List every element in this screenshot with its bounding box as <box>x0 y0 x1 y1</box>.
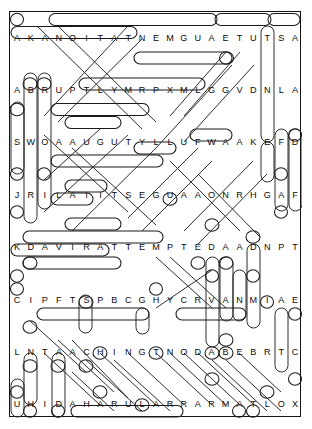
grid-cell: A <box>107 12 121 64</box>
grid-cell: P <box>163 222 177 274</box>
grid-cell: U <box>163 169 177 221</box>
grid-row: CIPFTSPBCGHYCRVANMIAE <box>10 274 302 326</box>
grid-cell: F <box>288 169 302 221</box>
grid-cell: T <box>121 117 135 169</box>
grid-cell: U <box>52 64 66 116</box>
grid-cell: A <box>66 117 80 169</box>
grid-cell: E <box>233 326 247 378</box>
grid-cell: L <box>274 64 288 116</box>
grid-cell: L <box>191 64 205 116</box>
grid-cell: M <box>246 274 260 326</box>
grid-cell: T <box>80 64 94 116</box>
grid-cell: J <box>10 169 24 221</box>
grid-cell: N <box>121 326 135 378</box>
grid-cell: R <box>205 379 219 429</box>
grid-cell: U <box>107 117 121 169</box>
grid-row: JRILAIITSEGUAAONRHGAF <box>10 169 302 221</box>
grid-cell: I <box>38 379 52 429</box>
grid-cell: A <box>10 64 24 116</box>
grid-cell: N <box>52 12 66 64</box>
grid-cell: U <box>246 12 260 64</box>
grid-cell: A <box>219 222 233 274</box>
grid-row: KDAVIRATTEMPTEDAADNPT <box>10 222 302 274</box>
grid-cell: Y <box>163 274 177 326</box>
grid-cell: A <box>274 274 288 326</box>
grid-cell: Y <box>107 64 121 116</box>
grid-cell: R <box>24 169 38 221</box>
grid-cell: K <box>246 117 260 169</box>
grid-cell: U <box>191 12 205 64</box>
grid-cell: R <box>260 326 274 378</box>
grid-cell: R <box>177 379 191 429</box>
grid-cell: H <box>149 274 163 326</box>
grid-cell: P <box>66 64 80 116</box>
grid-cell: A <box>288 12 302 64</box>
grid-cell: T <box>93 12 107 64</box>
grid-cell: U <box>121 379 135 429</box>
grid-cell: G <box>219 64 233 116</box>
grid-cell: P <box>93 274 107 326</box>
grid-cell: R <box>233 169 247 221</box>
grid-cell: M <box>163 12 177 64</box>
grid-cell: C <box>121 274 135 326</box>
grid-row: AKANOITATNEMGUAETUTSA <box>10 12 302 64</box>
grid-cell: G <box>260 169 274 221</box>
letter-grid: AKANOITATNEMGUAETUTSAABRUPTLYMRPXMLGGVDN… <box>10 12 302 418</box>
grid-cell: W <box>24 117 38 169</box>
grid-cell: D <box>191 326 205 378</box>
grid-cell: F <box>52 274 66 326</box>
grid-cell: I <box>38 169 52 221</box>
grid-cell: H <box>80 379 94 429</box>
grid-cell: I <box>80 169 94 221</box>
grid-cell: N <box>260 222 274 274</box>
grid-cell: D <box>24 222 38 274</box>
grid-cell: T <box>66 274 80 326</box>
grid-cell: O <box>38 117 52 169</box>
grid-cell: D <box>246 222 260 274</box>
grid-cell: M <box>121 64 135 116</box>
grid-cell: H <box>93 326 107 378</box>
grid-cell: A <box>233 117 247 169</box>
grid-cell: R <box>135 64 149 116</box>
grid-cell: G <box>177 12 191 64</box>
grid-cell: H <box>246 169 260 221</box>
grid-cell: D <box>246 64 260 116</box>
grid-cell: S <box>80 274 94 326</box>
grid-cell: T <box>121 222 135 274</box>
grid-cell: O <box>177 326 191 378</box>
grid-cell: E <box>149 12 163 64</box>
grid-cell: T <box>38 326 52 378</box>
grid-cell: N <box>163 326 177 378</box>
grid-cell: M <box>177 64 191 116</box>
grid-cell: B <box>107 274 121 326</box>
grid-cell: L <box>93 64 107 116</box>
grid-cell: I <box>66 222 80 274</box>
grid-cell: T <box>107 222 121 274</box>
grid-cell: S <box>10 117 24 169</box>
grid-cell: N <box>219 169 233 221</box>
grid-cell: I <box>107 326 121 378</box>
grid-cell: E <box>288 274 302 326</box>
grid-cell: N <box>24 326 38 378</box>
grid-cell: A <box>191 169 205 221</box>
grid-cell: A <box>93 222 107 274</box>
grid-cell: F <box>274 117 288 169</box>
grid-cell: V <box>52 222 66 274</box>
grid-cell: A <box>288 64 302 116</box>
grid-cell: T <box>177 222 191 274</box>
grid-cell: K <box>10 222 24 274</box>
grid-cell: T <box>288 222 302 274</box>
grid-cell: O <box>205 169 219 221</box>
grid-cell: C <box>10 274 24 326</box>
grid-cell: Y <box>135 117 149 169</box>
grid-cell: V <box>205 274 219 326</box>
grid-cell: A <box>66 326 80 378</box>
grid-cell: I <box>93 169 107 221</box>
grid-row: LNTAACHINGTNODABEBRTC <box>10 326 302 378</box>
grid-cell: E <box>260 117 274 169</box>
grid-cell: X <box>163 64 177 116</box>
grid-cell: U <box>177 117 191 169</box>
grid-cell: L <box>52 169 66 221</box>
grid-cell: G <box>135 326 149 378</box>
grid-cell: T <box>121 12 135 64</box>
